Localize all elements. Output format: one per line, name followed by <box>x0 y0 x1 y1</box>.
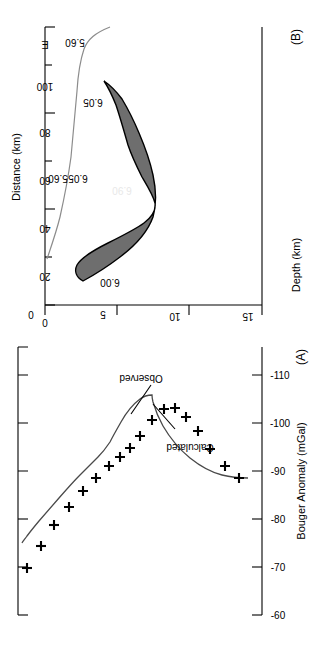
east-marker: E <box>41 39 48 51</box>
ytick-label: 10 <box>169 311 181 322</box>
density-label-6-00: 6.00 <box>100 277 120 288</box>
xtick-label: 80 <box>39 127 51 138</box>
ytick-label: 15 <box>242 311 254 322</box>
density-label-5-60-right: 5.60 <box>65 37 85 48</box>
xtick-label: 100 <box>36 81 53 92</box>
calculated-curve <box>22 395 248 543</box>
observed-label: Observed <box>119 373 162 384</box>
data-point <box>170 403 180 413</box>
data-point <box>234 473 244 483</box>
ytick-label: -110 <box>270 370 290 381</box>
panel-a-top-axis <box>18 347 28 615</box>
panel-b-plot: 0 20 40 60 80 100 Distance (km) W E 0 5 … <box>0 0 319 327</box>
upper-interface-line <box>47 27 110 259</box>
observed-data-points <box>22 403 244 573</box>
panel-b-density-model: 0 20 40 60 80 100 Distance (km) W E 0 5 … <box>0 0 319 327</box>
rotated-figure-canvas: -60 -70 -80 -90 -100 -110 Bouger Anomaly… <box>0 0 319 657</box>
xtick-label: 20 <box>39 271 51 282</box>
data-point <box>91 473 101 483</box>
panel-b-distance-title: Distance (km) <box>10 133 22 201</box>
density-label-6-90: 6.90 <box>112 185 132 196</box>
density-label-6-05-mid: 6.05 <box>68 173 88 184</box>
data-point <box>181 412 191 422</box>
data-point <box>135 431 145 441</box>
calculated-label: Calculated <box>166 442 213 453</box>
data-point <box>147 415 157 425</box>
data-point <box>115 452 125 462</box>
panel-a-value-axis <box>252 347 262 615</box>
data-point <box>104 461 114 471</box>
xtick-label: 0 <box>42 317 48 327</box>
figure-page: -60 -70 -80 -90 -100 -110 Bouger Anomaly… <box>0 0 319 657</box>
ytick-label: -70 <box>271 562 286 573</box>
observed-leader-line <box>131 385 151 414</box>
data-point <box>78 486 88 496</box>
ytick-label: -80 <box>271 514 286 525</box>
xtick-label: 40 <box>39 223 51 234</box>
panel-a-ytick-labels: -60 -70 -80 -90 -100 -110 <box>270 370 290 621</box>
data-point <box>125 443 135 453</box>
data-point <box>220 461 230 471</box>
data-point <box>22 563 32 573</box>
density-label-5-60-mid: 5.60 <box>48 173 68 184</box>
panel-a-id: (A) <box>294 349 308 365</box>
ytick-label: -60 <box>271 610 286 621</box>
ytick-label: 5 <box>100 309 106 320</box>
panel-b-ytick-labels: 0 5 10 15 <box>28 309 254 322</box>
panel-a-axis-title: Bouger Anomaly (mGal) <box>295 422 307 539</box>
panel-b-id: (B) <box>289 29 303 45</box>
panel-b-distance-axis <box>45 27 55 305</box>
ytick-label: 0 <box>28 309 34 320</box>
density-label-6-05-right: 6.05 <box>83 97 103 108</box>
panel-a-plot: -60 -70 -80 -90 -100 -110 Bouger Anomaly… <box>0 327 319 657</box>
data-point <box>193 426 203 436</box>
ytick-label: -90 <box>271 466 286 477</box>
data-point <box>64 502 74 512</box>
panel-b-depth-title: Depth (km) <box>290 238 302 292</box>
data-point <box>36 541 46 551</box>
panel-a-gravity-profile: -60 -70 -80 -90 -100 -110 Bouger Anomaly… <box>0 327 319 657</box>
data-point <box>49 520 59 530</box>
ytick-label: -100 <box>270 418 290 429</box>
